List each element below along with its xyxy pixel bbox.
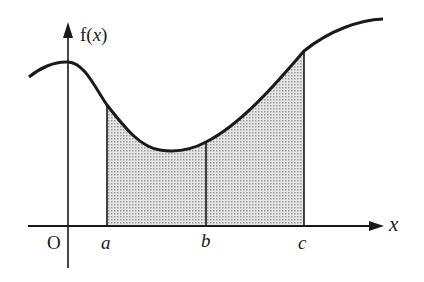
y-axis-arrow-icon — [63, 22, 73, 38]
point-c-label: c — [298, 233, 306, 252]
origin-label: O — [47, 233, 61, 252]
y-axis-label: f(x) — [80, 25, 107, 44]
area-under-curve-diagram — [0, 0, 424, 282]
y-label-prefix: f( — [80, 24, 93, 45]
y-label-var: x — [93, 24, 101, 45]
y-label-suffix: ) — [101, 24, 107, 45]
x-axis-arrow-icon — [369, 221, 384, 231]
point-b-label: b — [201, 231, 211, 250]
point-a-label: a — [101, 233, 111, 252]
x-axis-label: x — [389, 214, 398, 235]
